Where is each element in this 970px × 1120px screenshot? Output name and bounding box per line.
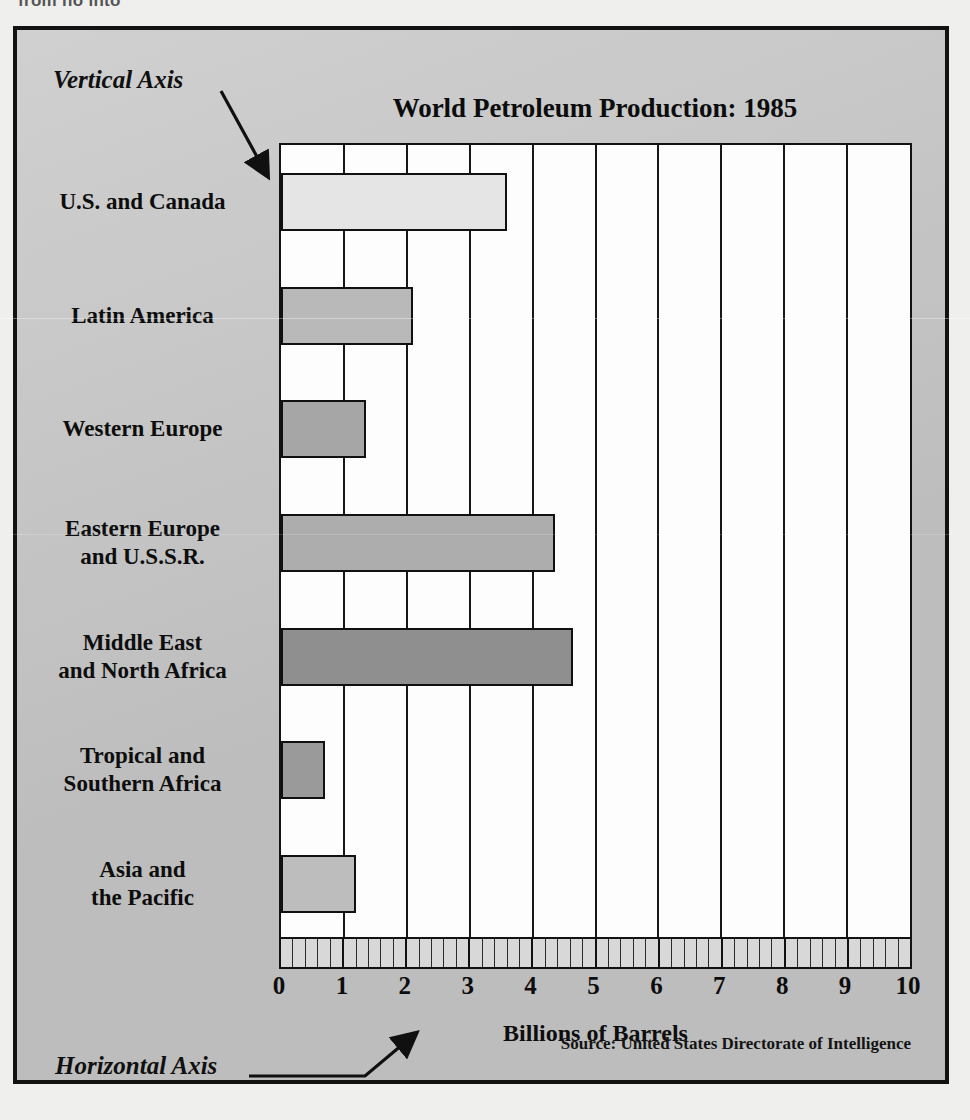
minor-tick <box>381 939 393 967</box>
minor-tick <box>772 939 785 967</box>
figure-frame: Vertical Axis World Petroleum Production… <box>13 26 949 1084</box>
minor-tick <box>533 939 545 967</box>
minor-tick <box>723 939 735 967</box>
minor-tick <box>786 939 798 967</box>
category-label: U.S. and Canada <box>20 188 265 216</box>
minor-tick <box>849 939 861 967</box>
category-label-line: Middle East <box>20 629 265 657</box>
horizontal-axis-leader-arrow <box>247 1030 437 1085</box>
minor-tick <box>798 939 810 967</box>
minor-tick <box>344 939 356 967</box>
minor-tick <box>760 939 772 967</box>
x-tick-label-group: 012345678910 <box>279 972 912 1006</box>
category-label-line: and North Africa <box>20 657 265 685</box>
minor-tick <box>432 939 444 967</box>
category-label-line: the Pacific <box>20 884 265 912</box>
bar[interactable] <box>281 741 325 799</box>
gridline <box>720 145 722 941</box>
bar[interactable] <box>281 400 366 458</box>
minor-tick <box>520 939 533 967</box>
minor-tick <box>420 939 432 967</box>
minor-tick <box>861 939 873 967</box>
bar[interactable] <box>281 855 356 913</box>
x-tick-label: 8 <box>776 972 789 1000</box>
bar[interactable] <box>281 628 573 686</box>
minor-tick <box>811 939 823 967</box>
category-label: Middle Eastand North Africa <box>20 629 265 685</box>
bar-row <box>281 259 413 373</box>
source-note: Source: United States Directorate of Int… <box>561 1034 911 1054</box>
category-label-line: Latin America <box>20 302 265 330</box>
category-label-line: U.S. and Canada <box>20 188 265 216</box>
bar-row <box>281 372 366 486</box>
minor-tick <box>495 939 507 967</box>
minor-tick <box>470 939 482 967</box>
minor-tick <box>646 939 659 967</box>
gridline <box>846 145 848 941</box>
x-tick-label: 10 <box>896 972 921 1000</box>
bar[interactable] <box>281 287 413 345</box>
minor-tick <box>748 939 760 967</box>
vertical-axis-annotation: Vertical Axis <box>53 66 183 94</box>
x-tick-label: 0 <box>273 972 286 1000</box>
bar-row <box>281 714 325 828</box>
gridline <box>657 145 659 941</box>
category-label-line: Asia and <box>20 856 265 884</box>
x-tick-label: 4 <box>524 972 537 1000</box>
category-label: Western Europe <box>20 415 265 443</box>
x-tick-label: 5 <box>587 972 600 1000</box>
category-label: Eastern Europeand U.S.S.R. <box>20 515 265 571</box>
minor-tick <box>331 939 344 967</box>
clipped-header-text: from no into <box>18 0 121 11</box>
minor-tick <box>597 939 609 967</box>
minor-tick <box>609 939 621 967</box>
category-label-line: Eastern Europe <box>20 515 265 543</box>
category-label: Latin America <box>20 302 265 330</box>
bar[interactable] <box>281 514 555 572</box>
minor-tick <box>483 939 495 967</box>
minor-tick <box>660 939 672 967</box>
x-tick-label: 2 <box>399 972 412 1000</box>
minor-tick <box>546 939 558 967</box>
bar[interactable] <box>281 173 507 231</box>
minor-tick <box>621 939 633 967</box>
category-label-line: and U.S.S.R. <box>20 543 265 571</box>
minor-tick <box>394 939 407 967</box>
x-tick-label: 9 <box>839 972 852 1000</box>
category-label-line: Southern Africa <box>20 770 265 798</box>
minor-tick <box>709 939 722 967</box>
minor-tick <box>281 939 293 967</box>
minor-tick <box>558 939 570 967</box>
minor-tick-band <box>279 937 912 969</box>
gridline <box>783 145 785 941</box>
minor-tick <box>886 939 898 967</box>
minor-tick <box>634 939 646 967</box>
minor-tick <box>571 939 583 967</box>
x-tick-label: 6 <box>650 972 663 1000</box>
minor-tick <box>697 939 709 967</box>
minor-tick <box>293 939 305 967</box>
category-label: Tropical andSouthern Africa <box>20 742 265 798</box>
minor-tick <box>899 939 910 967</box>
minor-tick <box>874 939 886 967</box>
plot-area <box>279 143 912 943</box>
x-tick-label: 7 <box>713 972 726 1000</box>
minor-tick <box>306 939 318 967</box>
minor-tick <box>583 939 596 967</box>
horizontal-axis-annotation: Horizontal Axis <box>55 1052 217 1080</box>
minor-tick <box>836 939 849 967</box>
bar-row <box>281 600 573 714</box>
category-label-line: Western Europe <box>20 415 265 443</box>
minor-tick <box>357 939 369 967</box>
x-tick-label: 1 <box>336 972 349 1000</box>
gridline <box>595 145 597 941</box>
bar-row <box>281 145 507 259</box>
minor-tick <box>508 939 520 967</box>
category-label: Asia andthe Pacific <box>20 856 265 912</box>
minor-tick <box>407 939 419 967</box>
chart-title: World Petroleum Production: 1985 <box>275 93 915 124</box>
bar-row <box>281 827 356 941</box>
minor-tick <box>735 939 747 967</box>
minor-tick <box>672 939 684 967</box>
category-label-line: Tropical and <box>20 742 265 770</box>
